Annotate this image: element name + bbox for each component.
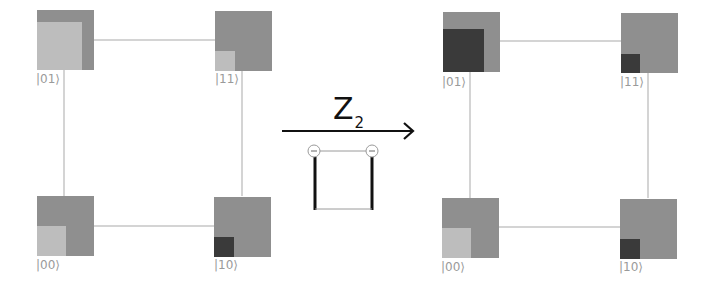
edge-left [469, 72, 471, 198]
state-label-00: |00⟩ [441, 260, 465, 274]
amplitude-square [621, 54, 640, 73]
edge-top [499, 40, 621, 42]
node-11 [621, 13, 678, 73]
state-label-11: |11⟩ [620, 75, 644, 89]
state-label-01: |01⟩ [442, 75, 466, 89]
arrow-icon [282, 123, 413, 139]
node-01 [443, 12, 500, 72]
gate-loop-icon [308, 145, 378, 210]
gate-graphics [0, 0, 714, 291]
amplitude-square [442, 228, 471, 258]
amplitude-square [443, 29, 484, 72]
state-label-10: |10⟩ [619, 260, 643, 274]
node-00 [442, 198, 499, 258]
edge-bottom [499, 226, 621, 228]
edge-right [647, 72, 649, 198]
amplitude-square [620, 239, 640, 259]
node-10 [620, 199, 677, 259]
